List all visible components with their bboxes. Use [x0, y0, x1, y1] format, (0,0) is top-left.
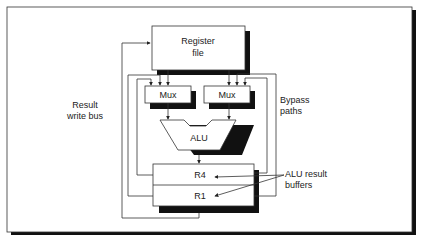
- register-file-label-line1: Register: [181, 36, 215, 46]
- bypass-paths-label-line1: Bypass: [280, 95, 310, 105]
- alu-result-buffers-label-line1: ALU result: [285, 169, 328, 179]
- mux-right-block: Mux: [204, 86, 255, 109]
- bypass-paths-label-line2: paths: [280, 106, 303, 116]
- buffer-r1-label: R1: [194, 191, 206, 201]
- alu-result-buffers-block: R4 R1: [153, 164, 259, 213]
- bypass-datapath-diagram: Register file Mux Mux ALU R4 R1: [0, 0, 422, 239]
- register-file-label-line2: file: [192, 48, 204, 58]
- mux-left-label: Mux: [159, 90, 177, 100]
- alu-result-buffers-label-line2: buffers: [285, 180, 313, 190]
- mux-left-block: Mux: [145, 86, 196, 109]
- buffer-r4-label: R4: [194, 170, 206, 180]
- register-file-block: Register file: [152, 26, 250, 75]
- result-write-bus-label-line2: write bus: [66, 111, 104, 121]
- mux-right-label: Mux: [218, 90, 236, 100]
- alu-label: ALU: [190, 133, 208, 143]
- result-write-bus-label-line1: Result: [72, 100, 98, 110]
